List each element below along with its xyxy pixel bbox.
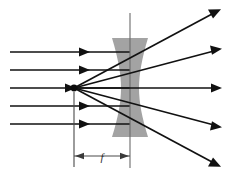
- incoming-ray-4-arrow: [79, 102, 90, 111]
- focal-dimension-arrow-right: [120, 153, 129, 159]
- incoming-ray-5-arrow: [79, 120, 90, 129]
- outgoing-ray-1-arrow: [208, 9, 221, 18]
- outgoing-ray-4-arrow: [210, 121, 222, 130]
- incoming-ray-1-arrow: [79, 48, 90, 57]
- outgoing-ray-1: [74, 14, 213, 89]
- incoming-ray-2-arrow: [79, 66, 90, 75]
- outgoing-ray-5: [74, 88, 213, 163]
- focal-length-label: f: [100, 151, 105, 163]
- ray-diagram-canvas: f: [0, 0, 228, 174]
- focal-dimension-arrow-left: [75, 153, 84, 159]
- outgoing-ray-2-arrow: [210, 45, 222, 54]
- optics-diagram: f: [0, 0, 228, 174]
- virtual-focal-point: [71, 85, 78, 92]
- outgoing-ray-3-arrow: [211, 84, 222, 93]
- outgoing-ray-5-arrow: [208, 157, 221, 166]
- outgoing-ray-group: [74, 9, 222, 167]
